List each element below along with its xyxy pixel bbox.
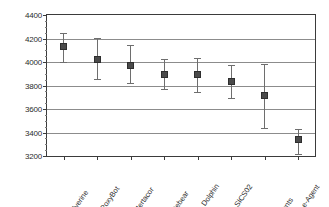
marker-square [194,71,201,78]
errorbar-cap-upper [194,58,201,59]
y-tick-label: 4200 [25,34,42,43]
errorbar-cap-upper [228,65,235,66]
marker-square [94,56,101,63]
errorbar-cap-lower [94,79,101,80]
errorbar-cap-lower [60,62,67,63]
y-minor-tick [45,56,47,57]
y-tick-label: 4400 [25,11,42,20]
x-tick-7 [298,156,299,160]
x-tick-label-e-agent: e-Agent [299,183,321,207]
y-minor-tick [45,50,47,51]
x-tick-2 [131,156,132,160]
marker-square [295,136,302,143]
y-tick-3200 [43,156,47,157]
marker-square [261,92,268,99]
y-tick-4400 [43,15,47,16]
y-tick-3400 [43,133,47,134]
y-minor-tick [45,27,47,28]
y-tick-label: 3800 [25,81,42,90]
y-minor-tick [45,21,47,22]
gridline-y-4000 [47,62,315,63]
y-minor-tick [45,150,47,151]
errorbar-cap-lower [228,98,235,99]
x-tick-label-dolphin: Dolphin [199,182,221,207]
errorbar-cap-upper [161,59,168,60]
y-tick-label: 3200 [25,152,42,161]
gridline-y-3400 [47,133,315,134]
y-minor-tick [45,74,47,75]
y-tick-3600 [43,109,47,110]
y-minor-tick [45,91,47,92]
y-minor-tick [45,80,47,81]
errorbar-cap-upper [261,64,268,65]
errorbar-cap-lower [194,92,201,93]
x-tick-0 [64,156,65,160]
errorbar-cap-upper [127,45,134,46]
x-tick-6 [265,156,266,160]
errorbar-cap-upper [295,129,302,130]
marker-square [161,71,168,78]
x-tick-label-learnagents: LearnAgents [264,196,295,207]
x-tick-label-mertacor: Mertacor [132,186,156,207]
y-minor-tick [45,144,47,145]
gridline-y-3800 [47,86,315,87]
x-tick-label-wolverine: Wolverine [64,188,90,207]
x-tick-3 [164,156,165,160]
plot-area: 3200340036003800400042004400WolverineRox… [46,14,316,157]
errorbar-cap-lower [261,128,268,129]
errorbar-cap-lower [295,154,302,155]
x-tick-label-sics02: SICS02 [233,183,255,207]
error-bar-chart: 3200340036003800400042004400WolverineRox… [0,0,329,207]
marker-square [60,43,67,50]
gridline-y-3600 [47,109,315,110]
errorbar-cap-upper [60,33,67,34]
y-tick-label: 3600 [25,105,42,114]
y-minor-tick [45,121,47,122]
y-minor-tick [45,127,47,128]
y-minor-tick [45,97,47,98]
y-tick-4200 [43,39,47,40]
marker-square [127,62,134,69]
y-minor-tick [45,44,47,45]
y-minor-tick [45,33,47,34]
y-tick-3800 [43,86,47,87]
x-tick-label-whitebear: Whitebear [164,189,190,207]
y-tick-label: 4000 [25,58,42,67]
x-tick-label-roxybot: RoxyBot [98,185,121,207]
y-tick-label: 3400 [25,128,42,137]
gridline-y-4200 [47,39,315,40]
marker-square [228,78,235,85]
y-minor-tick [45,103,47,104]
errorbar-cap-upper [94,38,101,39]
y-tick-4000 [43,62,47,63]
y-minor-tick [45,138,47,139]
errorbar-cap-lower [161,89,168,90]
y-minor-tick [45,68,47,69]
x-tick-1 [97,156,98,160]
y-minor-tick [45,115,47,116]
x-tick-5 [231,156,232,160]
x-tick-4 [198,156,199,160]
errorbar-cap-lower [127,83,134,84]
